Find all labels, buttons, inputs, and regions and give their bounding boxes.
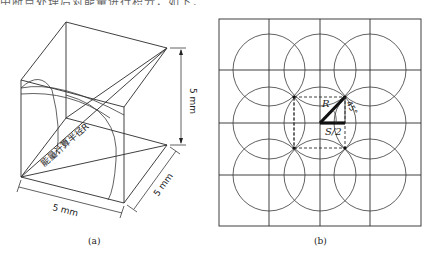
caption-a: (a) [88,236,100,246]
width-dim-ext-left [17,180,21,192]
half-spacing-label: S/2 [325,126,342,137]
width-label: 5 mm [52,202,80,218]
width-dim-ext-right [120,206,124,218]
sphere-cut-top-line [21,87,124,115]
panel-a-cube: 5 mm 5 mm 5 mm 能量计算半径R (a) [17,22,198,246]
sphere-arc-main [66,95,116,200]
node-dot [343,146,346,149]
depth-label: 5 mm [152,171,175,198]
r-label: R [321,98,330,109]
node-dot [292,95,295,98]
sphere-arc-left [21,79,58,155]
depth-dim-ext-front [127,205,137,212]
arrow-down-icon [179,138,183,144]
angle-label: 45° [344,100,359,117]
caption-b: (b) [314,236,327,246]
node-dot [292,146,295,149]
height-label: 5 mm [188,88,198,114]
figure-canvas: 5 mm 5 mm 5 mm 能量计算半径R (a) [0,0,434,258]
panel-b-grid: R 45° S/2 (b) [219,19,421,246]
back-face-diagonal [66,48,167,118]
cube-top-face [21,22,167,107]
arrow-up-icon [179,49,183,55]
